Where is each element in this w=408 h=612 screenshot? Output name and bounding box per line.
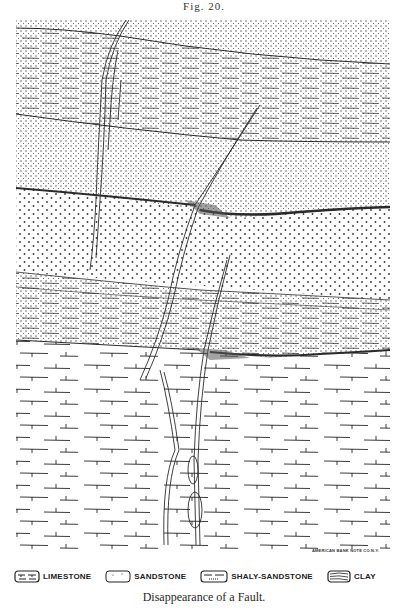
sandstone-swatch-icon xyxy=(105,570,131,583)
legend-label: SANDSTONE xyxy=(134,572,186,581)
legend-label: LIMESTONE xyxy=(43,572,91,581)
legend-item-limestone: LIMESTONE xyxy=(14,570,91,583)
shaly-sandstone-swatch-icon xyxy=(200,570,228,583)
legend-item-clay: CLAY xyxy=(327,570,376,583)
engraver-credit: AMERICAN BANK NOTE CO.N.Y. xyxy=(312,548,379,553)
legend-item-shaly-sandstone: SHALY-SANDSTONE xyxy=(200,570,313,583)
fault-cross-section-diagram xyxy=(0,0,408,560)
legend-label: SHALY-SANDSTONE xyxy=(231,572,313,581)
legend-label: CLAY xyxy=(354,572,376,581)
legend-item-sandstone: SANDSTONE xyxy=(105,570,186,583)
legend: LIMESTONE SANDSTONE SHALY-SANDSTONE CLAY xyxy=(14,568,404,584)
clay-swatch-icon xyxy=(327,570,351,583)
limestone-swatch-icon xyxy=(14,570,40,583)
stratum-limestone xyxy=(16,340,390,550)
figure-caption: Disappearance of a Fault. xyxy=(0,590,408,605)
